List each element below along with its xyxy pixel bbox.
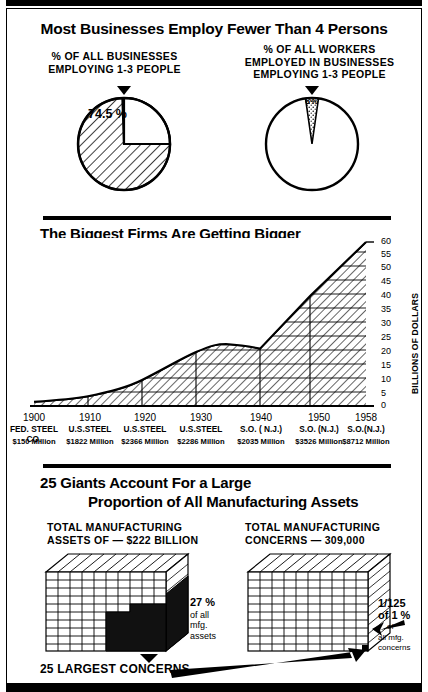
y-tick-15: 15 [381,360,391,370]
pie-left-caption: % OF ALL BUSINESSES EMPLOYING 1-3 PEOPLE [22,50,207,75]
pie-left-value: 74.5 % [88,107,127,121]
assets-area-chart [30,238,378,410]
cube-right-caption: TOTAL MANUFACTURING CONCERNS — 309,000 [245,521,380,547]
pointer-arrow-annotation [372,618,406,640]
bottom-caption: 25 LARGEST CONCERNS [40,662,190,676]
x-firm-4: S.O. ( N.J.) [229,424,293,434]
y-tick-50: 50 [381,262,391,272]
pie-right-caption-line1: % OF ALL WORKERS [222,43,417,56]
panel3-title-line1: 25 Giants Account For a Large [40,474,251,491]
x-assets-0: $150 Million [2,437,66,446]
y-axis-label: BILLIONS OF DOLLARS [410,293,420,394]
y-tick-30: 30 [381,318,391,328]
y-tick-0: 0 [381,400,386,410]
x-year-1958: 1958 [334,412,398,423]
x-assets-3: $2286 Million [169,437,233,446]
cube-left-annotation-pct: 27 % [190,597,216,608]
x-assets-4: $2035 Million [229,437,293,446]
pie-right-caption-line3: EMPLOYING 1-3 PEOPLE [222,68,417,81]
y-tick-45: 45 [381,276,391,286]
y-tick-40: 40 [381,290,391,300]
x-assets-6: $8712 Million [334,437,398,446]
x-year-1900: 1900 [2,412,66,423]
cube-left-caption-line2: ASSETS OF — $222 BILLION [47,534,198,547]
x-year-1930: 1930 [169,412,233,423]
panel1-title: Most Businesses Employ Fewer Than 4 Pers… [0,20,428,38]
y-tick-60: 60 [381,236,391,246]
cube-left-annotation: 27 % of all mfg. assets [190,597,216,641]
y-tick-10: 10 [381,374,391,384]
pie-right-caption-line2: EMPLOYED IN BUSINESSES [222,56,417,69]
pie-right-value: 6% [305,96,318,106]
x-firm-6: S.O.(N.J.) [334,424,398,434]
x-firm-2: U.S.STEEL [113,424,177,434]
y-tick-25: 25 [381,332,391,342]
y-tick-35: 35 [381,304,391,314]
y-tick-5: 5 [381,388,386,398]
x-assets-2: $2366 Million [113,437,177,446]
pointer-arrow-to-cube [170,648,380,682]
cube-left-caption: TOTAL MANUFACTURING ASSETS OF — $222 BIL… [47,521,198,547]
x-year-1920: 1920 [113,412,177,423]
y-tick-55: 55 [381,249,391,259]
top-border-bar [6,0,422,6]
cube-left-annotation-l2: mfg. [190,620,216,631]
divider-rule-1 [43,216,391,220]
y-tick-20: 20 [381,346,391,356]
cube-left-annotation-l3: assets [190,631,216,642]
pie-left-caption-line1: % OF ALL BUSINESSES [22,50,207,63]
cube-right-annotation-frac: 1/125 [378,598,410,609]
pie-chart-businesses [60,86,188,198]
cube-right-caption-line2: CONCERNS — 309,000 [245,534,380,547]
pie-left-pointer [117,86,131,95]
pie-right-caption: % OF ALL WORKERS EMPLOYED IN BUSINESSES … [222,43,417,81]
pie-left-caption-line2: EMPLOYING 1-3 PEOPLE [22,63,207,76]
panel3-title-line2: Proportion of All Manufacturing Assets [88,493,358,510]
x-firm-3: U.S.STEEL [169,424,233,434]
divider-rule-2 [43,464,391,468]
cube-right-annotation-l3: concerns [378,643,410,654]
cube-right-caption-line1: TOTAL MANUFACTURING [245,521,380,534]
infographic-page: Most Businesses Employ Fewer Than 4 Pers… [0,0,428,692]
bottom-border-bar [6,684,422,692]
pie-right-pointer [305,86,319,95]
cube-left-annotation-l1: of all [190,610,216,621]
cube-left-caption-line1: TOTAL MANUFACTURING [47,521,198,534]
x-year-1940: 1940 [229,412,293,423]
